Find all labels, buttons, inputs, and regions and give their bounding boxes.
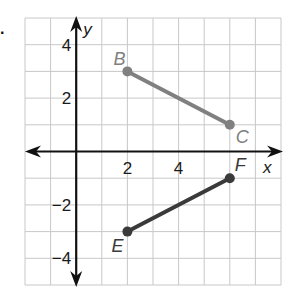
y-axis-label: y [82, 20, 93, 39]
point-f [225, 173, 235, 183]
point-label-c: C [236, 127, 250, 147]
point-e [122, 227, 132, 237]
y-tick-label: −4 [52, 249, 71, 268]
point-label-b: B [113, 49, 125, 69]
x-axis-label: x [262, 158, 272, 177]
x-tick-label: 4 [174, 159, 183, 178]
y-tick-label: 4 [62, 36, 71, 55]
y-tick-label: 2 [62, 89, 71, 108]
x-tick-label: 2 [123, 159, 132, 178]
point-label-f: F [235, 155, 247, 175]
y-tick-label: −2 [52, 196, 71, 215]
coordinate-plane: xy 2442−2−4 BCEF [0, 0, 293, 305]
point-label-e: E [111, 236, 124, 256]
point-c [225, 120, 235, 130]
axes: xy [25, 16, 283, 287]
